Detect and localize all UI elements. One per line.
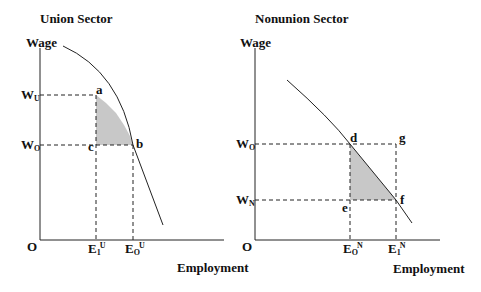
union-point-a: a bbox=[96, 83, 103, 96]
union-wo-label: WO bbox=[21, 138, 40, 151]
union-point-c: c bbox=[88, 140, 94, 153]
nonunion-e1-label: E1N bbox=[388, 242, 405, 255]
nonunion-title: Nonunion Sector bbox=[255, 12, 349, 25]
union-x-axis-label: Employment bbox=[177, 261, 249, 274]
union-title: Union Sector bbox=[40, 12, 113, 25]
nonunion-e0-label: EON bbox=[343, 242, 363, 255]
nonunion-point-f: f bbox=[400, 193, 404, 206]
union-e1-label: E1U bbox=[88, 242, 105, 255]
nonunion-wn-label: WN bbox=[236, 193, 255, 206]
nonunion-wo-label: WO bbox=[236, 137, 255, 150]
nonunion-point-d: d bbox=[350, 131, 357, 144]
nonunion-point-e: e bbox=[342, 201, 348, 214]
union-panel bbox=[40, 46, 224, 240]
union-origin-label: O bbox=[27, 240, 37, 253]
nonunion-point-g: g bbox=[399, 131, 406, 144]
union-point-b: b bbox=[136, 137, 143, 150]
nonunion-x-axis-label: Employment bbox=[393, 262, 465, 275]
union-wu-label: WU bbox=[21, 88, 40, 101]
union-deadweight-shade bbox=[96, 95, 133, 145]
nonunion-origin-label: O bbox=[242, 240, 252, 253]
nonunion-y-axis-label: Wage bbox=[240, 36, 271, 49]
union-e0-label: EOU bbox=[125, 242, 145, 255]
union-y-axis-label: Wage bbox=[26, 36, 57, 49]
